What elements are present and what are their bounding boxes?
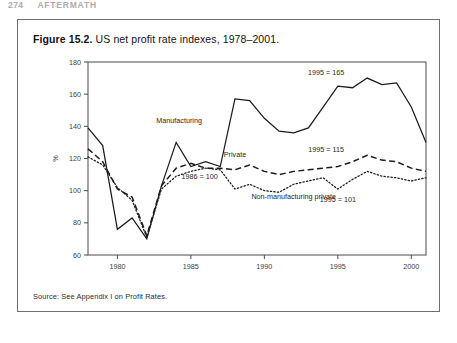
chart-annotation: Manufacturing: [156, 116, 202, 125]
chart-annotation: 1995 = 165: [308, 68, 344, 77]
y-tick-label: 60: [73, 251, 81, 260]
y-tick-label: 120: [69, 154, 81, 163]
figure-caption-number: Figure 15.2.: [33, 33, 93, 45]
chart-plot-area: 608010012014016018019801985199019952000%…: [18, 50, 441, 285]
chart-annotation: 1995 = 115: [308, 145, 344, 154]
y-tick-label: 140: [69, 122, 81, 131]
x-tick-label: 1980: [109, 262, 125, 271]
y-tick-label: 180: [69, 58, 81, 67]
line-chart-svg: 608010012014016018019801985199019952000%…: [18, 50, 441, 285]
chart-axes: 608010012014016018019801985199019952000%: [51, 58, 426, 271]
x-tick-label: 1995: [330, 262, 346, 271]
chart-annotation: 1995 = 101: [320, 195, 356, 204]
page-running-header: 274 AFTERMATH: [8, 0, 97, 12]
chart-series: [88, 78, 426, 239]
y-tick-label: 80: [73, 218, 81, 227]
figure-caption-text: US net profit rate indexes, 1978–2001.: [93, 33, 280, 45]
figure-caption: Figure 15.2. US net profit rate indexes,…: [33, 33, 279, 45]
page-number: 274: [8, 0, 23, 10]
x-tick-label: 1985: [183, 262, 199, 271]
chart-annotations: ManufacturingPrivateNon-manufacturing pr…: [156, 68, 356, 204]
chart-annotation: Private: [224, 150, 246, 159]
y-tick-label: 160: [69, 90, 81, 99]
figure-source-note: Source: See Appendix I on Profit Rates.: [33, 292, 167, 301]
chart-annotation: 1986 = 100: [182, 172, 218, 181]
y-axis-title: %: [51, 155, 60, 162]
x-tick-label: 1990: [256, 262, 272, 271]
running-title: AFTERMATH: [37, 0, 96, 10]
figure-container: Figure 15.2. US net profit rate indexes,…: [17, 19, 440, 312]
x-tick-label: 2000: [403, 262, 419, 271]
y-tick-label: 100: [69, 186, 81, 195]
